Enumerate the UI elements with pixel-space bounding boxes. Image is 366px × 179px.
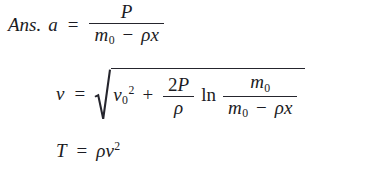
mass-symbol: m (228, 97, 242, 118)
natural-log-operator: ln (201, 84, 216, 105)
equals-sign: = (74, 83, 85, 105)
thrust-symbol: T (56, 140, 67, 162)
thrust-expression: ρv2 (96, 140, 120, 162)
log-denominator: m0−ρx (223, 96, 297, 121)
x-symbol: x (284, 97, 292, 118)
coefficient-denominator-rho: ρ (163, 96, 194, 118)
minus-operator: − (256, 97, 267, 118)
minus-operator: − (123, 24, 134, 45)
mass-subscript-zero: 0 (264, 82, 270, 95)
fraction-numerator-P: P (89, 2, 163, 23)
mass-symbol: m (94, 24, 108, 45)
answer-sheet: Ans. a = P m0−ρx v = v02+ 2P ρ ln (0, 0, 366, 179)
equals-sign: = (77, 140, 88, 162)
initial-velocity-symbol: v (113, 84, 121, 105)
numerator-two: 2 (168, 74, 178, 95)
mass-subscript-zero: 0 (109, 34, 115, 47)
plus-operator: + (142, 84, 153, 105)
equation-velocity: v = v02+ 2P ρ ln m0 m0−ρx (56, 68, 305, 121)
equation-acceleration: Ans. a = P m0−ρx (8, 2, 166, 48)
initial-velocity-exponent-two: 2 (128, 84, 134, 97)
velocity-exponent-two: 2 (114, 140, 120, 153)
acceleration-symbol: a (48, 14, 58, 36)
log-argument-fraction: m0 m0−ρx (223, 72, 297, 121)
fraction-denominator: m0−ρx (89, 23, 163, 48)
coefficient-fraction: 2P ρ (163, 75, 194, 118)
coefficient-numerator: 2P (163, 75, 194, 96)
numerator-P: P (178, 74, 190, 95)
x-symbol: x (150, 24, 158, 45)
velocity-symbol: v (56, 83, 64, 105)
square-root: v02+ 2P ρ ln m0 m0−ρx (94, 68, 305, 121)
answer-label: Ans. (8, 14, 41, 36)
mass-subscript-zero: 0 (242, 107, 248, 120)
equation-thrust: T = ρv2 (56, 140, 120, 162)
log-numerator: m0 (223, 72, 297, 96)
rho-symbol: ρ (275, 97, 284, 118)
radicand: v02+ 2P ρ ln m0 m0−ρx (111, 68, 305, 121)
equals-sign: = (68, 14, 79, 36)
acceleration-fraction: P m0−ρx (89, 2, 163, 48)
velocity-symbol: v (105, 140, 113, 161)
radical-sign-icon (94, 68, 111, 121)
mass-symbol: m (250, 71, 264, 92)
